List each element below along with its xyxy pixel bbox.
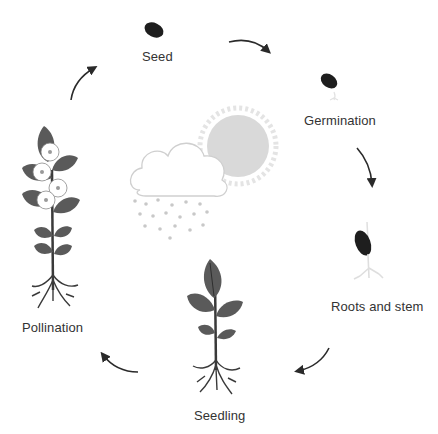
- label-germination: Germination: [304, 113, 376, 128]
- diagram-artwork: [0, 0, 438, 434]
- germination-seed-icon: [318, 71, 340, 100]
- arrow-germination-to-roots: [357, 148, 372, 184]
- arrow-seedling-to-pollination: [103, 355, 138, 372]
- rain-icon: [133, 198, 209, 240]
- flowering-plant-icon: [22, 126, 80, 308]
- seed-icon: [142, 19, 166, 40]
- label-seed: Seed: [142, 49, 173, 64]
- arrow-pollination-to-seed: [71, 68, 94, 100]
- label-pollination: Pollination: [22, 320, 83, 335]
- label-seedling: Seedling: [194, 408, 245, 423]
- plant-life-cycle-diagram: Seed Germination Roots and stem Seedling…: [0, 0, 438, 434]
- label-roots-and-stem: Roots and stem: [331, 299, 423, 314]
- sprouting-seed-icon: [352, 222, 383, 279]
- seedling-plant-icon: [187, 259, 243, 394]
- arrow-seed-to-germination: [229, 40, 268, 51]
- arrow-roots-to-seedling: [298, 348, 329, 371]
